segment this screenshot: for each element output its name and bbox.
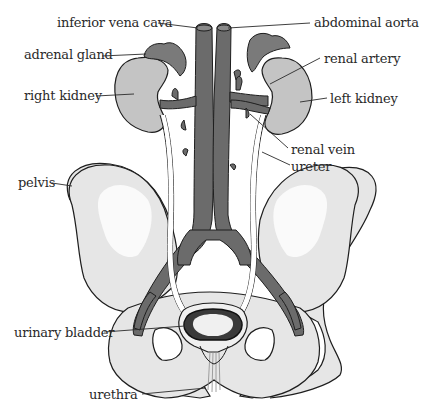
label-urethra: urethra xyxy=(89,388,137,401)
label-pelvis: pelvis xyxy=(18,176,55,189)
label-ureter: ureter xyxy=(291,160,331,173)
label-urinary-bladder: urinary bladder xyxy=(14,326,114,339)
leader-ureter xyxy=(262,152,290,165)
label-abdominal-aorta: abdominal aorta xyxy=(314,16,419,29)
abdominal-aorta xyxy=(213,24,246,255)
label-renal-artery: renal artery xyxy=(324,52,400,65)
label-renal-vein: renal vein xyxy=(291,143,355,156)
inferior-vena-cava xyxy=(186,24,214,253)
label-right-kidney: right kidney xyxy=(24,89,102,102)
label-adrenal-gland: adrenal gland xyxy=(24,48,113,61)
label-inferior-vena-cava: inferior vena cava xyxy=(57,16,172,29)
label-left-kidney: left kidney xyxy=(330,92,398,105)
leader-abdominal-aorta xyxy=(228,23,310,28)
left-kidney xyxy=(262,58,312,134)
urinary-system-diagram: inferior vena cava abdominal aorta adren… xyxy=(0,0,421,413)
